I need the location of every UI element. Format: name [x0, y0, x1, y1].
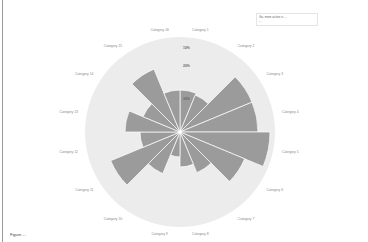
chart-center: [179, 131, 182, 134]
radial-tick-label: 20%: [183, 64, 190, 68]
category-label: Category 12: [60, 150, 79, 154]
category-label: Category 11: [75, 188, 93, 192]
polar-area-chart: Category 1Category 2Category 3Category 4…: [0, 0, 368, 242]
category-label: Category 15: [104, 44, 123, 48]
figure-caption: Figure ...: [10, 232, 26, 237]
category-label: Category 7: [238, 217, 255, 221]
category-label: Category 14: [75, 72, 94, 76]
radial-tick-label: 30%: [183, 97, 190, 101]
radial-tick-label: 10%: [183, 46, 190, 50]
legend: Go, more active is ... ...: [256, 13, 318, 26]
category-label: Category 1: [192, 28, 209, 32]
legend-line-2: ...: [259, 19, 262, 23]
category-label: Category 4: [282, 110, 299, 114]
category-label: Category 5: [282, 150, 299, 154]
category-label: Category 10: [104, 217, 123, 221]
category-label: Category 3: [267, 72, 284, 76]
category-label: Category 2: [238, 44, 255, 48]
category-label: Category 16: [150, 28, 169, 32]
legend-line-1: Go, more active is ...: [259, 15, 287, 19]
category-label: Category 8: [192, 232, 209, 236]
category-label: Category 13: [60, 110, 79, 114]
category-label: Category 9: [151, 232, 168, 236]
category-label: Category 6: [267, 188, 284, 192]
